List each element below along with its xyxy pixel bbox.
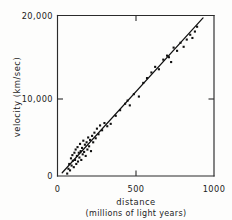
data-point [75, 148, 77, 150]
fit-line-group [62, 18, 203, 173]
data-point [79, 143, 81, 145]
data-point [68, 163, 70, 165]
x-tick-label-1000: 1000 [203, 184, 226, 194]
data-point [74, 159, 76, 161]
data-point [183, 46, 185, 48]
tick-labels: 20,000 10,000 0 0 500 1000 [22, 11, 226, 195]
data-point [96, 128, 98, 130]
data-point [93, 132, 95, 134]
data-point [78, 152, 80, 154]
data-point [76, 155, 78, 157]
data-point [101, 129, 103, 131]
data-point [73, 166, 75, 168]
data-point [78, 156, 80, 158]
data-point [146, 77, 148, 79]
data-point [71, 154, 73, 156]
y-axis-title: velocity (km/sec) [12, 57, 22, 137]
data-point [124, 103, 126, 105]
data-point [162, 59, 164, 61]
data-point [133, 93, 135, 95]
data-point [69, 169, 71, 171]
data-point [150, 71, 152, 73]
data-point [81, 147, 83, 149]
hubble-fit-line [62, 18, 203, 173]
data-point [73, 152, 75, 154]
x-axis-title: distance [116, 197, 156, 207]
x-tick-label-500: 500 [128, 184, 145, 194]
data-point [82, 140, 84, 142]
data-point [129, 104, 131, 106]
data-point [173, 47, 175, 49]
data-point [82, 153, 84, 155]
data-point [89, 139, 91, 141]
data-point [86, 148, 88, 150]
data-point [99, 124, 101, 126]
data-point [176, 50, 178, 52]
data-point [103, 122, 105, 124]
data-point [110, 123, 112, 125]
data-point [194, 31, 196, 33]
data-point [127, 100, 129, 102]
data-point [97, 133, 99, 135]
data-point [72, 160, 74, 162]
data-point [142, 82, 144, 84]
y-tick-label-0: 0 [47, 171, 53, 181]
data-point [196, 26, 198, 28]
data-point [166, 55, 168, 57]
data-point [115, 115, 117, 117]
x-tick-label-0: 0 [55, 184, 61, 194]
axis-titles: distance (millions of light years) veloc… [12, 57, 186, 218]
data-point [66, 173, 68, 175]
data-point [88, 145, 90, 147]
data-point [85, 155, 87, 157]
data-point [80, 159, 82, 161]
data-point [76, 146, 78, 148]
data-point [119, 109, 121, 111]
data-point [90, 150, 92, 152]
data-point [83, 151, 85, 153]
data-point [168, 56, 170, 58]
data-point [158, 68, 160, 70]
data-point [75, 163, 77, 165]
y-tick-label-20000: 20,000 [22, 11, 53, 21]
data-point [87, 136, 89, 138]
x-axis-subtitle: (millions of light years) [86, 209, 187, 218]
data-point [91, 135, 93, 137]
data-point [189, 34, 191, 36]
scatter-points-group [66, 26, 198, 175]
data-point [154, 66, 156, 68]
data-point [106, 125, 108, 127]
data-point [77, 161, 79, 163]
data-point [186, 39, 188, 41]
data-point [179, 42, 181, 44]
data-point [71, 165, 73, 167]
data-point [95, 137, 97, 139]
data-point [170, 61, 172, 63]
data-point [138, 96, 140, 98]
data-point [86, 141, 88, 143]
scatter-plot-svg: 20,000 10,000 0 0 500 1000 distance (mil… [0, 0, 232, 220]
data-point [80, 150, 82, 152]
y-tick-label-10000: 10,000 [22, 94, 53, 104]
data-point [92, 141, 94, 143]
data-point [191, 37, 193, 39]
data-point [70, 157, 72, 159]
data-point [84, 144, 86, 146]
hubble-diagram-figure: 20,000 10,000 0 0 500 1000 distance (mil… [0, 0, 232, 220]
